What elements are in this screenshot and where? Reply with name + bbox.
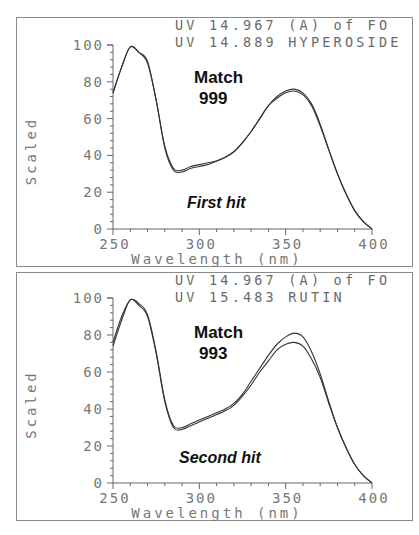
y-tick-label: 100 <box>73 37 104 53</box>
hit-label: Second hit <box>179 449 261 466</box>
x-tick-label: 350 <box>272 490 303 506</box>
header-library-line: UV 15.483 RUTIN <box>175 289 345 305</box>
y-axis-title: Scaled <box>23 370 39 439</box>
match-score: 999 <box>199 89 227 108</box>
header-sample-line: UV 14.967 (A) of FO <box>175 18 390 33</box>
match-label: Match <box>194 68 243 87</box>
y-tick-label: 0 <box>94 475 104 491</box>
y-tick-label: 20 <box>83 184 104 200</box>
spectrum-chart-first-hit: UV 14.967 (A) of FOUV 14.889 HYPEROSIDE0… <box>17 18 414 268</box>
x-axis-title: Wavelength (nm) <box>131 505 302 521</box>
x-tick-label: 250 <box>99 236 130 252</box>
header-sample-line: UV 14.967 (A) of FO <box>175 273 390 288</box>
match-label: Match <box>194 323 243 342</box>
header-library-line: UV 14.889 HYPEROSIDE <box>175 34 402 50</box>
x-tick-label: 400 <box>358 490 389 506</box>
x-tick-label: 350 <box>272 236 303 252</box>
y-tick-label: 40 <box>83 401 104 417</box>
y-tick-label: 0 <box>94 221 104 237</box>
x-tick-label: 400 <box>358 236 389 252</box>
match-score: 993 <box>199 344 227 363</box>
spectrum-chart-second-hit: UV 14.967 (A) of FOUV 15.483 RUTIN020406… <box>17 273 414 522</box>
y-tick-label: 40 <box>83 147 104 163</box>
x-tick-label: 300 <box>186 236 217 252</box>
y-tick-label: 20 <box>83 438 104 454</box>
y-tick-label: 60 <box>83 364 104 380</box>
spectrum-panel-second-hit: UV 14.967 (A) of FOUV 15.483 RUTIN020406… <box>16 272 413 521</box>
y-axis-title: Scaled <box>23 117 39 186</box>
y-tick-label: 80 <box>83 327 104 343</box>
y-tick-label: 60 <box>83 111 104 127</box>
x-tick-label: 250 <box>99 490 130 506</box>
y-tick-label: 80 <box>83 74 104 90</box>
x-axis-title: Wavelength (nm) <box>131 251 302 267</box>
hit-label: First hit <box>187 194 246 211</box>
y-tick-label: 100 <box>73 290 104 306</box>
spectrum-panel-first-hit: UV 14.967 (A) of FOUV 14.889 HYPEROSIDE0… <box>16 17 413 267</box>
x-tick-label: 300 <box>186 490 217 506</box>
